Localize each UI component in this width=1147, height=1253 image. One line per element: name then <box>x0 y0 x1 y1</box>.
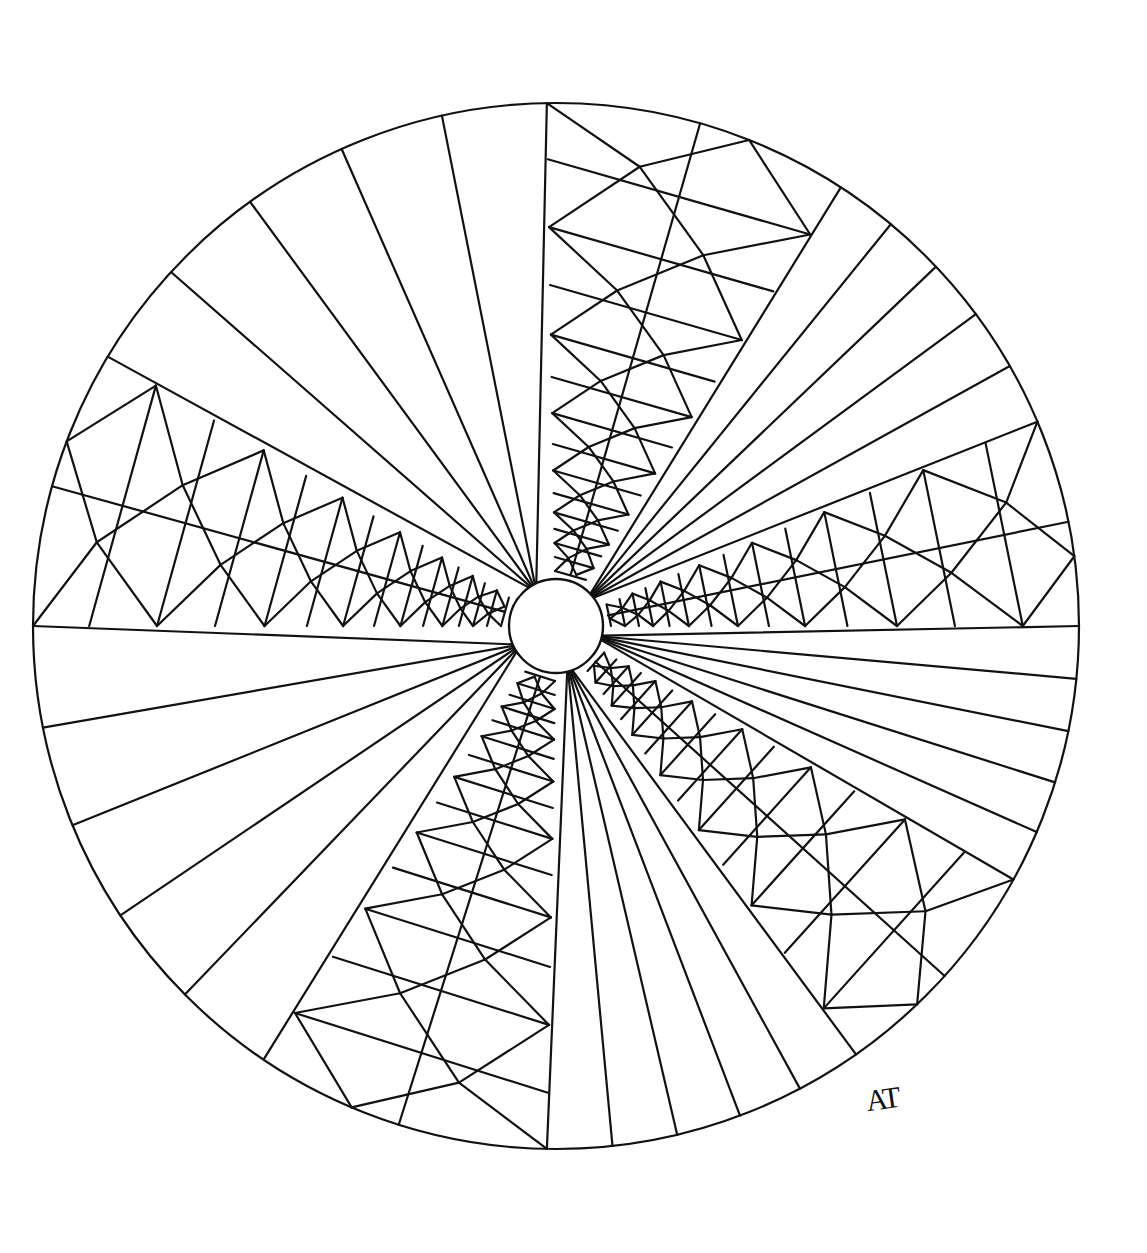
ray-line <box>108 357 529 588</box>
lattice-diagonal <box>664 340 742 355</box>
center-circle-stroke <box>509 579 603 673</box>
ray-line <box>571 670 800 1088</box>
lattice-diagonal <box>699 780 703 830</box>
lattice-spine <box>608 522 1069 616</box>
lattice-diagonal <box>295 993 400 1013</box>
lattice-diagonal <box>400 993 459 1082</box>
lattice-diagonal <box>485 917 551 959</box>
lattice-diagonal <box>342 498 356 551</box>
lattice-diagonal <box>796 512 824 560</box>
ray-line <box>33 626 513 644</box>
lattice-diagonal <box>264 450 284 523</box>
ray-line <box>602 637 1077 679</box>
ray-line <box>43 646 513 728</box>
lattice-diagonal <box>551 291 617 335</box>
lattice-diagonal <box>1006 422 1037 503</box>
lattice-diagonal <box>497 590 505 606</box>
lattice-diagonal <box>311 551 357 581</box>
lattice-diagonal <box>824 1004 917 1008</box>
ray-line <box>602 637 1069 731</box>
lattice-diagonal <box>156 386 183 486</box>
lattice-diagonal <box>400 532 410 571</box>
lattice-diagonal <box>454 769 495 777</box>
lattice-diagonal <box>459 1083 547 1149</box>
lattice-diagonal <box>97 485 183 542</box>
lattice-diagonal <box>33 542 97 626</box>
ray-line <box>171 272 530 587</box>
ray-line <box>601 638 1055 782</box>
ray-line <box>442 116 535 584</box>
lattice-diagonal <box>311 581 343 626</box>
lattice-spine <box>595 661 944 975</box>
lattice-diagonal <box>547 103 640 167</box>
artist-signature: AT <box>864 1080 901 1118</box>
lattice-spine <box>399 677 540 1125</box>
ray-line <box>264 652 517 1060</box>
lattice-diagonal <box>805 587 845 626</box>
lattice-diagonal <box>731 543 751 578</box>
sector-rays <box>590 187 1037 597</box>
lattice-diagonal <box>549 167 640 227</box>
lattice-diagonal <box>377 571 410 593</box>
ray-line <box>536 103 547 583</box>
lattice-diagonal <box>589 447 614 481</box>
ray-line <box>592 267 936 596</box>
lattice-diagonal <box>454 777 473 822</box>
lattice-diagonal <box>495 769 518 804</box>
lattice-diagonal <box>951 573 1022 626</box>
lattice-diagonal <box>365 909 400 994</box>
lattice-diagonal <box>598 515 628 521</box>
lattice-diagonal <box>553 447 588 471</box>
ray-line <box>568 671 612 1146</box>
lattice-diagonal <box>417 833 442 895</box>
lattice-diagonal <box>221 523 284 565</box>
sector-rays <box>601 626 1079 880</box>
lattice-diagonal <box>502 702 524 706</box>
lattice-diagonal <box>587 545 609 549</box>
lattice-diagonal <box>459 1025 549 1083</box>
lattice-diagonal <box>684 565 699 591</box>
lattice-diagonal <box>601 381 635 428</box>
ray-line <box>602 626 1079 636</box>
center-circle <box>509 579 603 673</box>
lattice-diagonal <box>365 894 442 908</box>
lattice-diagonal <box>442 558 450 586</box>
lattice-diagonal <box>617 291 663 356</box>
sector-lattice <box>588 653 1014 1009</box>
lattice-diagonal <box>473 822 504 870</box>
lattice-diagonal <box>1006 503 1074 557</box>
lattice-diagonal <box>518 782 553 804</box>
lattice-diagonal <box>482 731 512 737</box>
lattice-diagonal <box>576 568 593 575</box>
sector-lattice <box>547 103 810 580</box>
lattice-diagonal <box>703 255 741 340</box>
lattice-spine <box>571 123 701 575</box>
lattice-diagonal <box>897 573 951 626</box>
lattice-diagonal <box>377 593 400 626</box>
lattice-diagonal <box>845 536 885 587</box>
lattice-diagonal <box>926 880 1014 912</box>
lattice-diagonal <box>664 355 692 417</box>
lattice-diagonal <box>482 736 496 769</box>
lattice-diagonal <box>650 582 661 601</box>
lattice-diagonal <box>738 598 767 626</box>
lattice-diagonal <box>517 677 534 684</box>
lattice-diagonal <box>752 837 758 906</box>
mandala-drawing <box>0 0 1147 1253</box>
lattice-diagonal <box>473 576 479 597</box>
lattice-diagonal <box>97 542 157 626</box>
lattice-diagonal <box>552 381 600 413</box>
lattice-diagonal <box>528 740 554 756</box>
lattice-diagonal <box>632 708 634 735</box>
lattice-diagonal <box>594 666 596 683</box>
lattice-diagonal <box>417 822 473 833</box>
lattice-diagonal <box>824 915 832 1009</box>
lattice-diagonal <box>221 565 265 626</box>
lattice-diagonal <box>504 839 552 870</box>
lattice-diagonal <box>1023 556 1075 626</box>
lattice-diagonal <box>660 739 663 776</box>
lattice-diagonal <box>442 894 485 959</box>
lattice-diagonal <box>635 428 656 473</box>
lattice-diagonal <box>613 481 628 514</box>
lattice-diagonal <box>640 167 704 255</box>
